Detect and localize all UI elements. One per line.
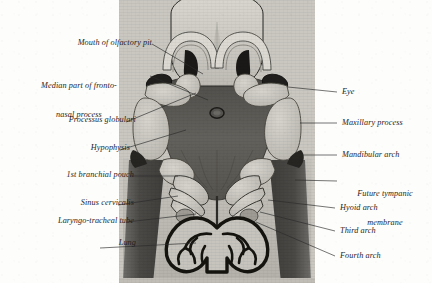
plate-bottom-edge xyxy=(119,278,315,283)
label-lung: Lung xyxy=(8,238,136,248)
label-hypophysis: Hypophysis xyxy=(8,143,130,153)
label-eye: Eye xyxy=(342,87,430,97)
label-fourth-arch: Fourth arch xyxy=(340,251,430,261)
label-first-branchial-pouch: 1st branchial pouch xyxy=(4,170,134,180)
label-line-1: Median part of fronto- xyxy=(6,81,152,91)
label-line-1: Future tympanic xyxy=(340,189,430,199)
lung-field xyxy=(166,218,268,272)
hypophysis-opening xyxy=(210,108,224,118)
label-maxillary-process: Maxillary process xyxy=(342,118,432,128)
label-third-arch: Third arch xyxy=(340,226,430,236)
label-median-part-of-frontonasal-process: Median part of fronto- nasal process xyxy=(6,62,152,139)
label-sinus-cervicalis: Sinus cervicalis xyxy=(6,198,134,208)
lung-capsule xyxy=(166,218,268,272)
label-mouth-of-olfactory-pit: Mouth of olfactory pit xyxy=(10,38,152,48)
label-laryngo-tracheal-tube: Laryngo-tracheal tube xyxy=(4,216,134,226)
illustration-page: Mouth of olfactory pit Median part of fr… xyxy=(0,0,432,283)
label-processus-globulari: Processus globulari xyxy=(8,115,136,125)
label-hyoid-arch: Hyoid arch xyxy=(340,203,430,213)
label-mandibular-arch: Mandibular arch xyxy=(342,150,432,160)
